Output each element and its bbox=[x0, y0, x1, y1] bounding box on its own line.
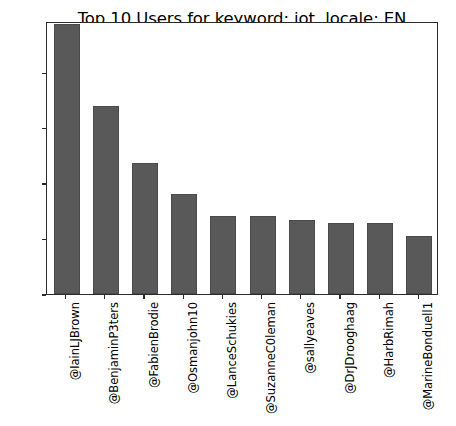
bar bbox=[132, 163, 158, 294]
x-tick-label: @Osmanjohn10 bbox=[188, 302, 200, 394]
x-tick-label: @HarbRimah bbox=[384, 302, 396, 378]
x-tick-mark bbox=[300, 295, 301, 299]
bar bbox=[289, 220, 315, 294]
x-tick-label: @DrJDrooghaag bbox=[345, 302, 357, 394]
x-tick-mark bbox=[104, 295, 105, 299]
x-tick-mark bbox=[261, 295, 262, 299]
x-tick-label: @FabienBrodie bbox=[149, 302, 161, 388]
bar bbox=[367, 223, 393, 294]
x-tick-mark bbox=[65, 295, 66, 299]
chart-figure: Top 10 Users for keyword: iot, locale: E… bbox=[0, 0, 456, 426]
x-tick-label: @IainLJBrown bbox=[70, 302, 82, 380]
x-tick-mark bbox=[222, 295, 223, 299]
bar bbox=[406, 236, 432, 294]
x-tick-mark bbox=[183, 295, 184, 299]
bar bbox=[171, 194, 197, 294]
x-tick-mark bbox=[418, 295, 419, 299]
x-tick-mark bbox=[143, 295, 144, 299]
x-tick-label: @LanceSchukies bbox=[227, 302, 239, 399]
x-tick-label: @BenjaminP3ters bbox=[109, 302, 121, 404]
plot-axes-frame bbox=[46, 22, 438, 295]
x-tick-mark bbox=[379, 295, 380, 299]
bar bbox=[328, 223, 354, 295]
plot-area bbox=[47, 23, 437, 294]
bar bbox=[54, 24, 80, 294]
x-tick-label: @sallyeaves bbox=[305, 302, 317, 374]
x-tick-mark bbox=[339, 295, 340, 299]
bar bbox=[210, 216, 236, 294]
x-tick-label: @MarineBonduell1 bbox=[423, 302, 435, 410]
x-tick-label: @SuzanneC0leman bbox=[266, 302, 278, 414]
bar bbox=[93, 106, 119, 294]
bar bbox=[250, 216, 276, 294]
